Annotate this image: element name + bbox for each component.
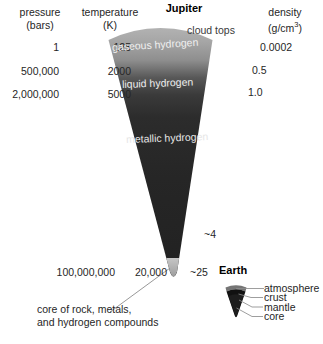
earth-title: Earth [219, 264, 247, 277]
density-header-name: density [268, 6, 301, 18]
temperature-value-4: 20,000 [135, 266, 167, 279]
density-value-4: ~4 [204, 228, 216, 241]
pressure-value-1: 1 [53, 41, 59, 54]
diagram-canvas: pressure (bars) temperature (K) density … [0, 0, 323, 344]
pressure-header-unit: (bars) [20, 19, 61, 32]
temperature-value-2: 2000 [108, 65, 131, 78]
pressure-value-3: 2,000,000 [12, 88, 59, 101]
pressure-column-header: pressure (bars) [20, 6, 61, 31]
earth-mantle-band [229, 294, 244, 316]
core-caption-line-1: core of rock, metals, [37, 303, 132, 316]
pressure-value-2: 500,000 [21, 65, 59, 78]
pressure-value-4: 100,000,000 [57, 266, 115, 279]
density-value-5: ~25 [190, 266, 208, 279]
layer-label-liquid-hydrogen: liquid hydrogen [122, 76, 194, 90]
earth-label-core: core [264, 310, 284, 323]
temperature-header-name: temperature [82, 6, 139, 18]
page-title: Jupiter [166, 2, 203, 15]
core-caption-line-2: and hydrogen compounds [37, 316, 158, 329]
earth-wedge-graphic [226, 285, 265, 317]
density-value-2: 0.5 [252, 64, 267, 77]
pressure-header-name: pressure [20, 6, 61, 18]
density-value-3: 1.0 [248, 86, 263, 99]
temperature-value-3: 5000 [108, 88, 131, 101]
